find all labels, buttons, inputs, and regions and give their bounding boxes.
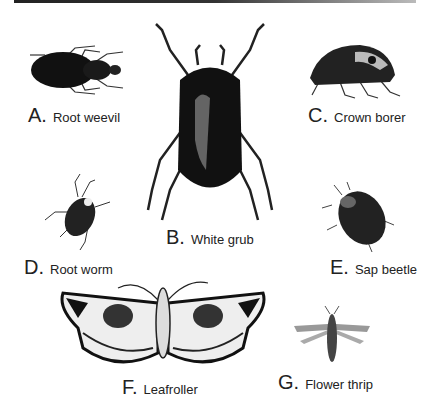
- white-grub-illustration: [140, 20, 280, 225]
- label-white-grub: B.White grub: [166, 226, 254, 249]
- label-root-weevil: A.Root weevil: [28, 104, 120, 127]
- flower-thrip-illustration: [292, 306, 372, 366]
- root-worm-illustration: [40, 172, 120, 252]
- label-flower-thrip: G.Flower thrip: [278, 371, 373, 394]
- crown-borer-illustration: [300, 40, 405, 100]
- root-weevil-illustration: [25, 40, 130, 100]
- label-root-worm: D.Root worm: [24, 256, 113, 279]
- top-rule: [14, 0, 416, 3]
- label-leafroller: F.Leafroller: [122, 376, 198, 399]
- sap-beetle-illustration: [322, 180, 402, 255]
- leafroller-illustration: [58, 278, 268, 373]
- label-crown-borer: C.Crown borer: [308, 104, 406, 127]
- label-sap-beetle: E.Sap beetle: [330, 256, 417, 279]
